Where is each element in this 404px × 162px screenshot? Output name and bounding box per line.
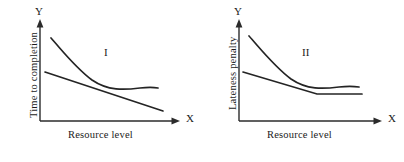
series-lower-kinked-line-two	[243, 72, 362, 94]
y-axis-arrow-icon-one	[37, 19, 44, 28]
x-axis-arrow-icon-one	[172, 118, 181, 125]
x-axis-letter-two: X	[388, 112, 396, 124]
y-axis-title-one: Time to completion	[28, 32, 39, 118]
y-axis-arrow-icon-two	[236, 19, 243, 28]
figure-container: Y X Time to completion Resource level I …	[0, 0, 404, 162]
x-axis-title-two: Resource level	[267, 129, 332, 140]
x-axis-letter-one: X	[186, 112, 194, 124]
panel-tag-two: II	[302, 46, 309, 58]
panel-tag-one: I	[104, 46, 108, 58]
x-axis-arrow-icon-two	[374, 118, 383, 125]
series-lower-straight-line-one	[45, 72, 163, 111]
x-axis-title-one: Resource level	[68, 129, 133, 140]
y-axis-title-two: Lateness penalty	[227, 37, 238, 110]
y-axis-letter-one: Y	[35, 5, 43, 17]
chart-panel-two: Y X Lateness penalty Resource level II	[202, 0, 404, 162]
chart-panel-one: Y X Time to completion Resource level I	[0, 0, 202, 162]
series-upper-convex-curve-two	[249, 36, 359, 88]
y-axis-letter-two: Y	[234, 5, 242, 17]
